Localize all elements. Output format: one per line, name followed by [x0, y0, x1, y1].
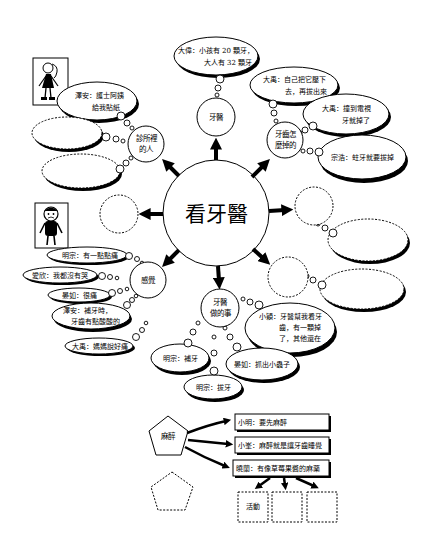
thought-bubble: 晏如：很痛 — [48, 288, 112, 304]
bubble-text: 小穎：牙醫幫我看牙 — [259, 312, 322, 321]
bubble-text: 牙齒有點酸酸的 — [71, 317, 120, 326]
blank-pentagon — [151, 472, 193, 510]
branch-dentist: 大偉：小孩有 20 顆牙， 大人有 32 顆牙 牙醫 — [174, 37, 260, 136]
thought-bubble: 晏如：抓出小蟲子 — [226, 348, 300, 383]
bubble-text: 宗浩：蛀牙就要拔掉 — [331, 153, 394, 162]
activity-label: 活動 — [246, 502, 260, 511]
node-label: 的人 — [139, 144, 154, 154]
bubble-text: 去，再拔出來 — [285, 87, 327, 96]
thought-bubble: 大禹：媽媽說好痛 — [65, 338, 135, 356]
thought-bubble: 澤安：補牙時， 牙齒有點酸酸的 — [52, 303, 132, 332]
bubble-text: 晏如：抓出小蟲子 — [234, 360, 290, 369]
arrow-icon — [185, 447, 225, 466]
how-teeth-fall-node — [267, 122, 303, 158]
thought-bubble: 大禹：撞到電視 牙就掉了 — [303, 94, 391, 137]
blank-node-right-upper — [295, 187, 333, 225]
node-label: 牙齒怎 — [275, 129, 297, 139]
clinic-people-node — [128, 126, 164, 162]
arrow-icon — [259, 478, 270, 486]
node-label: 麼掉的 — [275, 140, 296, 150]
thought-bubble: 明宗：補牙 — [151, 344, 211, 375]
node-label: 診所裡 — [136, 133, 158, 143]
bubble-text: 大偉：小孩有 20 顆牙， — [178, 46, 254, 55]
bubble-text: 大人有 32 顆牙 — [204, 58, 252, 67]
anesthesia-label: 麻醉 — [161, 431, 176, 441]
bubble-text: 了，其他還在 — [279, 334, 321, 343]
blank-thought-bubble — [328, 219, 410, 264]
arrow-down-left-icon — [168, 250, 179, 261]
blank-node-left — [100, 195, 138, 233]
thought-bubble: 宗浩：蛀牙就要拔掉 — [318, 135, 408, 183]
statement-box: 曉蘭：有像草莓果醬的麻藥 — [233, 460, 331, 478]
dentist-node-label: 牙醫 — [209, 113, 224, 122]
bubble-text: 牙就掉了 — [342, 116, 370, 125]
bubble-text: 晏如：很痛 — [62, 291, 97, 300]
bubble-text: 愛欣：我都沒有哭 — [32, 271, 88, 280]
arrow-icon — [284, 478, 285, 485]
arrow-icon — [188, 440, 228, 444]
activity-box: 活動 — [238, 492, 268, 522]
bubble-text: 澤安：護士阿姨 — [75, 91, 124, 100]
dentist-work-node — [201, 289, 239, 327]
blank-thought-bubble — [320, 269, 406, 312]
anesthesia-section: 麻醉 小明：要先麻醉 小峯：麻醉就是讓牙齒睡覺 曉蘭：有像草莓果醬的麻藥 活動 — [149, 414, 337, 522]
branch-clinic-people: 澤安：護士阿姨 給我貼紙 診所裡 的人 — [32, 58, 164, 191]
statement-box: 小峯：麻醉就是讓牙齒睡覺 — [235, 437, 331, 455]
anesthesia-pentagon: 麻醉 — [149, 416, 188, 455]
bubble-text: 澤安：補牙時， — [63, 306, 112, 315]
arrow-icon — [187, 421, 226, 433]
bubble-text: 明宗：有一點點痛 — [62, 251, 118, 260]
feelings-node-label: 感覺 — [141, 275, 156, 285]
arrow-down-icon — [218, 266, 219, 281]
activity-box — [272, 492, 302, 522]
arrow-up-right-icon — [252, 165, 264, 177]
statement-text: 小峯：麻醉就是讓牙齒睡覺 — [238, 441, 322, 450]
arrow-right-icon — [269, 210, 285, 211]
boy-figure-icon — [35, 203, 68, 248]
thought-bubble: 明宗：有一點點痛 — [47, 247, 129, 265]
bubble-text: 齒，有一顆掉 — [279, 323, 321, 332]
blank-node-right-lower — [268, 257, 308, 297]
arrow-up-left-icon — [168, 165, 179, 176]
statement-box: 小明：要先麻醉 — [235, 414, 331, 432]
node-label: 做的事 — [210, 308, 232, 318]
central-topic-label: 看牙醫 — [185, 202, 248, 226]
blank-thought-bubble — [32, 117, 104, 152]
thought-bubble: 愛欣：我都沒有哭 — [23, 267, 99, 285]
statement-text: 小明：要先麻醉 — [238, 418, 287, 427]
bubble-text: 明宗：拔牙 — [196, 383, 231, 392]
bubble-text: 大禹：撞到電視 — [322, 104, 371, 113]
bubble-text: 給我貼紙 — [92, 103, 120, 112]
thought-bubble: 大偉：小孩有 20 顆牙， 大人有 32 顆牙 — [174, 37, 260, 78]
node-label: 牙醫 — [213, 298, 228, 307]
bubble-text: 大禹：自己把它壓下 — [263, 75, 326, 84]
thought-bubble: 明宗：拔牙 — [184, 375, 244, 402]
branch-feelings: 明宗：有一點點痛 愛欣：我都沒有哭 晏如：很痛 澤安：補牙時， 牙齒有點酸酸的 — [23, 203, 166, 356]
mind-map: 看牙醫 大偉：小孩有 20 顆牙， 大人有 32 顆牙 牙醫 大禹：自己把它壓下 — [0, 0, 430, 543]
arrow-icon — [296, 478, 314, 486]
bubble-text: 明宗：補牙 — [163, 354, 198, 363]
branch-dentist-work: 小穎：牙醫幫我看牙 齒，有一顆掉 了，其他還在 明宗：補牙 晏如：抓出小蟲子 明… — [151, 289, 337, 402]
arrow-down-right-icon — [253, 249, 264, 259]
bubble-text: 大禹：媽媽說好痛 — [72, 342, 128, 351]
branch-blank-right-upper — [295, 187, 410, 264]
branch-how-teeth-fall: 大禹：自己把它壓下 去，再拔出來 大禹：撞到電視 牙就掉了 宗浩：蛀牙就要拔掉 … — [250, 67, 408, 183]
statement-text: 曉蘭：有像草莓果醬的麻藥 — [236, 464, 320, 473]
blank-thought-bubble — [42, 154, 122, 191]
activity-box — [307, 492, 337, 522]
